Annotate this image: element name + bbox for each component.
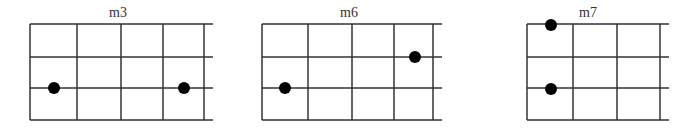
finger-dot	[178, 82, 190, 94]
finger-dot	[48, 82, 60, 94]
fretboard-grid	[262, 24, 442, 120]
diagram-m7: m7	[527, 5, 669, 120]
finger-dot	[279, 82, 291, 94]
finger-dot	[545, 83, 557, 95]
diagram-label-m3: m3	[109, 5, 127, 20]
finger-dot	[545, 19, 557, 31]
fretboard-grid	[527, 24, 669, 120]
diagram-label-m7: m7	[579, 5, 597, 20]
diagram-m6: m6	[262, 5, 442, 120]
finger-dot	[409, 51, 421, 63]
diagram-m3: m3	[30, 5, 213, 120]
diagram-label-m6: m6	[340, 5, 358, 20]
fretboard-grid	[30, 24, 213, 120]
interval-fretboard-diagrams: m3 m6 m7	[0, 0, 700, 132]
